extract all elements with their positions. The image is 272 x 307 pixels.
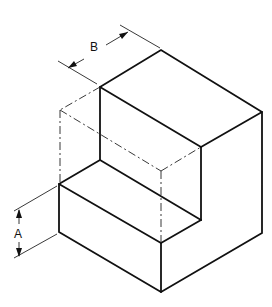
dimension-b: B bbox=[58, 25, 160, 84]
arrowhead-icon bbox=[16, 209, 22, 218]
isometric-step-block-drawing: B A bbox=[0, 0, 272, 307]
dimension-label-a: A bbox=[14, 227, 22, 241]
arrowhead-icon bbox=[119, 32, 128, 39]
phantom-lines bbox=[60, 87, 201, 243]
arrowhead-icon bbox=[16, 248, 22, 257]
arrowhead-icon bbox=[68, 61, 77, 68]
dimension-label-b: B bbox=[90, 40, 98, 54]
dimension-a: A bbox=[14, 186, 57, 258]
